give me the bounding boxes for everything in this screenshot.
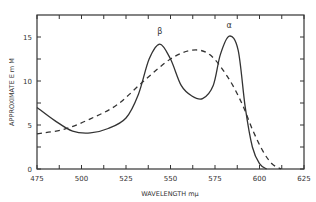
x-axis-label: WAVELENGTH mμ: [141, 190, 198, 198]
chart: 475500525550575600625051015WAVELENGTH mμ…: [0, 0, 316, 202]
x-tick-label: 625: [297, 175, 310, 183]
plot-frame: [37, 15, 304, 169]
y-tick-label: 0: [28, 166, 32, 174]
x-tick-label: 575: [208, 175, 221, 183]
peak-label: α: [227, 21, 232, 30]
x-tick-label: 475: [30, 175, 43, 183]
y-tick-label: 10: [23, 78, 32, 86]
y-tick-label: 5: [28, 122, 32, 130]
solid-curve: [37, 36, 267, 169]
y-tick-label: 15: [23, 34, 32, 42]
y-axis-label: APPROXIMATE E m M: [8, 58, 16, 126]
x-tick-label: 500: [75, 175, 88, 183]
x-tick-label: 525: [119, 175, 132, 183]
dashed-curve: [37, 50, 281, 169]
peak-label: β: [157, 27, 162, 36]
x-tick-label: 550: [164, 175, 177, 183]
x-tick-label: 600: [253, 175, 266, 183]
